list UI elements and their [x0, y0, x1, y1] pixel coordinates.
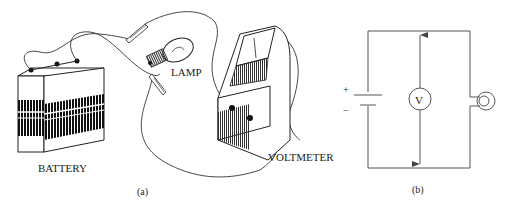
- battery-illustration: [18, 59, 104, 153]
- lamp-label: LAMP: [171, 66, 202, 78]
- battery-minus-sign: −: [343, 105, 349, 116]
- battery-plus-sign: +: [343, 84, 349, 95]
- panel-a: LAMP BATTERY VOLTMETER (a): [18, 12, 334, 198]
- voltmeter-label: VOLTMETER: [268, 151, 334, 163]
- lamp-symbol: [477, 92, 495, 110]
- circuit-figure: LAMP BATTERY VOLTMETER (a) V + − (b): [0, 0, 514, 207]
- panel-b: [354, 31, 495, 168]
- caption-a: (a): [137, 186, 148, 198]
- battery-label: BATTERY: [38, 162, 87, 174]
- circuit-wire: [368, 31, 470, 97]
- voltmeter-symbol-label: V: [415, 94, 423, 106]
- lamp-illustration: [146, 33, 197, 67]
- caption-b: (b): [412, 184, 424, 196]
- voltmeter-illustration: [218, 26, 290, 160]
